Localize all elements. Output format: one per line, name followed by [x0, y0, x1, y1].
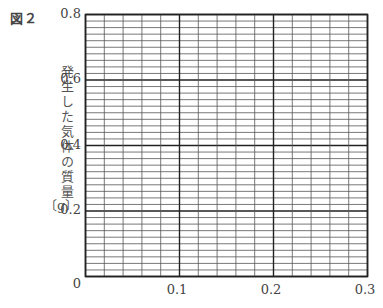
graph-grid: [0, 0, 383, 308]
